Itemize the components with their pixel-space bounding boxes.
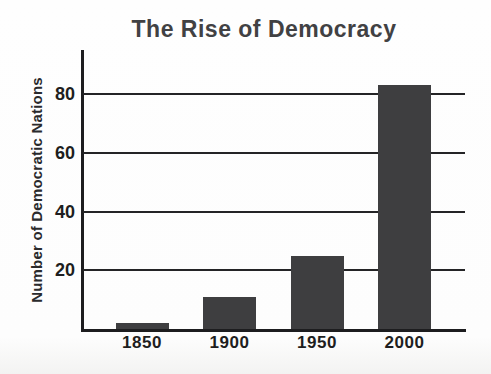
bar-1850	[116, 323, 169, 329]
x-axis-line	[81, 329, 466, 332]
y-tick-label: 80	[33, 83, 75, 105]
x-tick-label: 1900	[190, 333, 270, 353]
y-tick-label: 20	[33, 259, 75, 281]
bar-chart: The Rise of Democracy Number of Democrat…	[0, 0, 491, 374]
x-tick-label: 1950	[277, 333, 357, 353]
y-tick-label: 60	[33, 142, 75, 164]
y-tick-label: 40	[33, 201, 75, 223]
x-tick-label: 2000	[365, 333, 445, 353]
bar-1950	[291, 256, 344, 329]
bar-2000	[378, 85, 431, 329]
bar-1900	[203, 297, 256, 329]
x-tick-label: 1850	[102, 333, 182, 353]
chart-title: The Rise of Democracy	[83, 16, 445, 43]
plot-area	[83, 50, 465, 329]
